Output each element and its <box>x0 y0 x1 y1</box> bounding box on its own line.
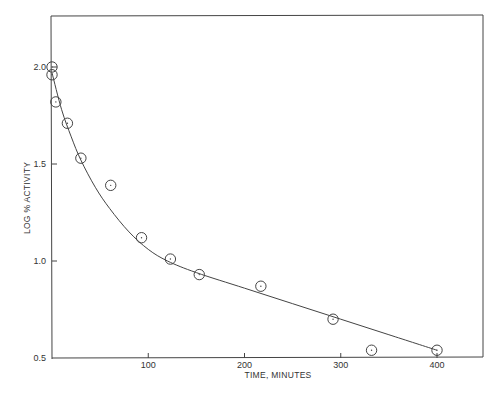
x-tick-label: 400 <box>429 360 444 370</box>
data-point <box>256 281 266 291</box>
y-tick-label: 2.0 <box>33 62 46 72</box>
y-axis-label: LOG % ACTIVITY <box>22 162 32 234</box>
x-tick-label: 100 <box>141 360 156 370</box>
axis-ticks <box>52 67 437 358</box>
data-point <box>366 345 376 355</box>
y-tick-label: 0.5 <box>33 353 46 363</box>
x-tick-label: 300 <box>333 360 348 370</box>
data-point <box>136 233 146 243</box>
data-points <box>47 62 442 356</box>
data-point <box>106 180 116 190</box>
chart: 1002003004000.51.01.52.0 TIME, MINUTES L… <box>0 0 499 394</box>
data-point <box>76 153 86 163</box>
x-axis-label: TIME, MINUTES <box>244 370 311 380</box>
x-tick-label: 200 <box>237 360 252 370</box>
data-point <box>328 314 338 324</box>
x-axis <box>52 357 483 358</box>
y-tick-label: 1.0 <box>33 256 46 266</box>
y-tick-label: 1.5 <box>33 159 46 169</box>
data-point <box>47 70 57 80</box>
top-border <box>51 15 483 16</box>
fitted-curve <box>52 73 437 350</box>
tick-labels: 1002003004000.51.01.52.0 <box>33 62 444 370</box>
